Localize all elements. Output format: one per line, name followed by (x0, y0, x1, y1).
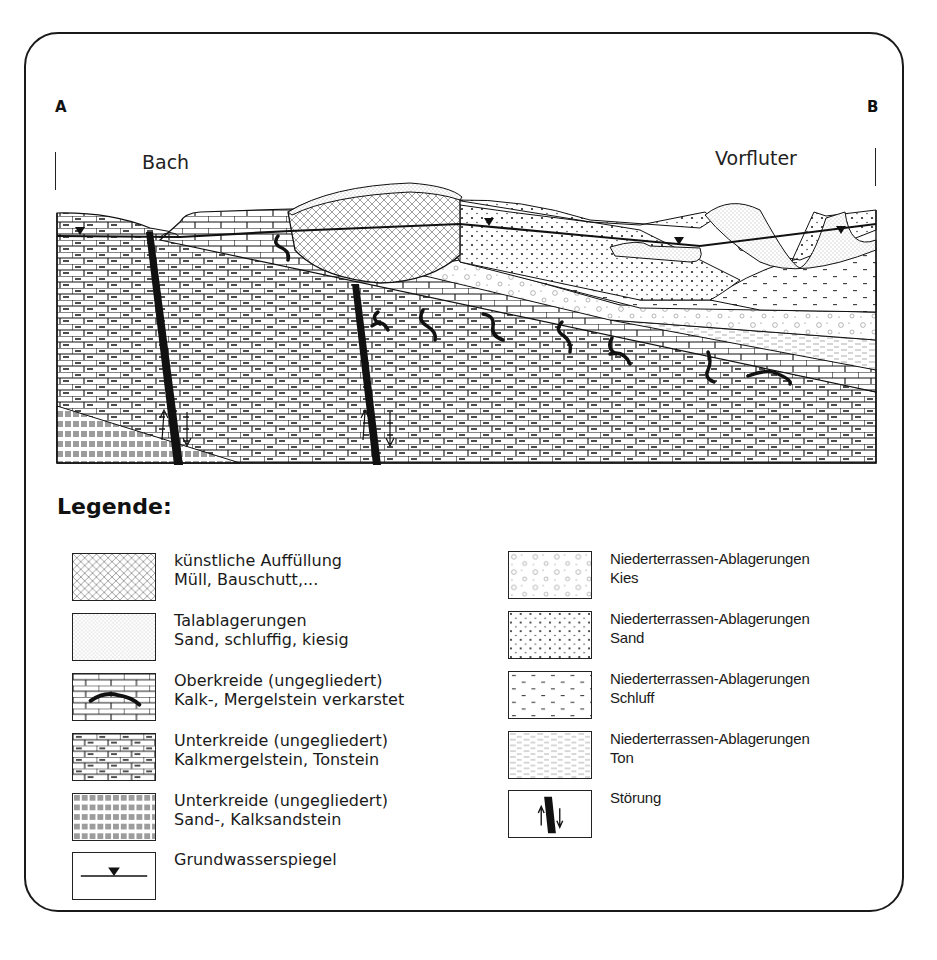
legend-sublabel: Kalkmergelstein, Tonstein (174, 750, 388, 769)
legend-sublabel: Kalk-, Mergelstein verkarstet (174, 690, 404, 709)
legend-item-ton: Niederterrassen-Ablagerungen Ton (508, 731, 810, 779)
legend-sublabel: Ton (610, 748, 810, 767)
legend-label: Niederterrassen-Ablagerungen (610, 609, 810, 628)
legend-label: Unterkreide (ungegliedert) (174, 731, 388, 750)
legend-label: Niederterrassen-Ablagerungen (610, 549, 810, 568)
legend-sublabel: Schluff (610, 688, 810, 707)
legend-item-talablagerungen: Talablagerungen Sand, schluffig, kiesig (72, 613, 349, 661)
legend-item-kies: Niederterrassen-Ablagerungen Kies (508, 551, 810, 599)
legend-label: Grundwasserspiegel (174, 850, 337, 869)
legend-item-sand: Niederterrassen-Ablagerungen Sand (508, 611, 810, 659)
dashes-swatch-icon (508, 731, 592, 779)
legend-item-oberkreide: Oberkreide (ungegliedert) Kalk-, Mergels… (72, 673, 404, 721)
legend-sublabel: Müll, Bauschutt,... (174, 570, 342, 589)
legend-sublabel: Sand, schluffig, kiesig (174, 630, 349, 649)
legend-item-stoerung: Störung (508, 790, 661, 838)
legend-label: Störung (610, 788, 661, 807)
water-table-swatch-icon (72, 852, 156, 900)
brick-karst-swatch-icon (72, 673, 156, 721)
legend-label: Unterkreide (ungegliedert) (174, 791, 388, 810)
legend-label: Oberkreide (ungegliedert) (174, 671, 404, 690)
legend-item-grundwasser: Grundwasserspiegel (72, 852, 337, 900)
legend-title: Legende: (57, 494, 172, 519)
legend-sublabel: Sand-, Kalksandstein (174, 810, 388, 829)
legend-sublabel: Sand (610, 628, 810, 647)
cross-section (0, 0, 937, 480)
basket-weave-swatch-icon (72, 793, 156, 841)
fine-dots-swatch-icon (72, 613, 156, 661)
legend-label: Niederterrassen-Ablagerungen (610, 729, 810, 748)
dots-swatch-icon (508, 611, 592, 659)
legend-item-unterkreide-ton: Unterkreide (ungegliedert) Kalkmergelste… (72, 733, 388, 781)
legend-sublabel: Kies (610, 568, 810, 587)
silt-swatch-icon (508, 671, 592, 719)
crosshatch-swatch-icon (72, 553, 156, 601)
legend-item-auffuellung: künstliche Auffüllung Müll, Bauschutt,..… (72, 553, 342, 601)
fault-swatch-icon (508, 790, 592, 838)
legend-label: Niederterrassen-Ablagerungen (610, 669, 810, 688)
legend-item-unterkreide-sand: Unterkreide (ungegliedert) Sand-, Kalksa… (72, 793, 388, 841)
legend-label: künstliche Auffüllung (174, 551, 342, 570)
legend-item-schluff: Niederterrassen-Ablagerungen Schluff (508, 671, 810, 719)
circles-swatch-icon (508, 551, 592, 599)
brick-dash-swatch-icon (72, 733, 156, 781)
legend-label: Talablagerungen (174, 611, 349, 630)
